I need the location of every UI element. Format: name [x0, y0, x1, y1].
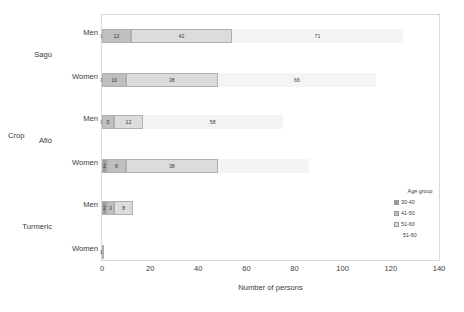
legend-item-label: 30-40: [401, 199, 415, 205]
bar-segment: [126, 73, 217, 87]
bar-track: 2838: [102, 159, 439, 173]
legend-item[interactable]: 30-40: [385, 199, 455, 205]
bar-segment: [114, 115, 143, 129]
legend-item[interactable]: 41-50: [385, 210, 455, 216]
category-label-afio-women: Women: [72, 158, 98, 167]
category-label-sagu-men: Men: [83, 28, 98, 37]
bar-segment: [107, 201, 114, 215]
stacked-bar-chart: Crop Men Sagú Women Men Afió Women Men T…: [0, 0, 464, 312]
bar-segment: [102, 73, 126, 87]
category-label-afio-men: Men: [83, 114, 98, 123]
x-axis-tick: 80: [290, 264, 298, 273]
legend-swatch-icon: [394, 200, 399, 205]
bar-segment: [107, 159, 126, 173]
bar-segment: [114, 201, 133, 215]
bar-segment: [143, 115, 283, 129]
bar-segment: [126, 159, 217, 173]
category-label-sagu-women: Women: [72, 72, 98, 81]
bar-track: 0103866: [102, 73, 439, 87]
x-axis-tick: 40: [194, 264, 202, 273]
legend-item-label: 51-60: [403, 232, 417, 238]
bar-segment: [131, 29, 232, 43]
bar-track: 051258: [102, 115, 439, 129]
bar-row: 2838: [102, 159, 439, 173]
category-label-turmeric-women: Women: [72, 244, 98, 253]
group-label-sagu: Sagú: [34, 50, 52, 59]
legend: Age group 30-4041-5051-6051-60: [385, 188, 455, 243]
legend-item[interactable]: 51-60: [385, 221, 455, 227]
bar-track: 0124271: [102, 29, 439, 43]
legend-title: Age group: [385, 188, 455, 194]
bar-segment: [218, 159, 309, 173]
legend-item-label: 51-60: [401, 221, 415, 227]
legend-swatch-icon: [394, 222, 399, 227]
group-label-afio: Afió: [39, 136, 52, 145]
bar-track: 01: [102, 245, 439, 259]
bar-segment: [232, 29, 403, 43]
group-label-turmeric: Turmeric: [22, 222, 52, 231]
legend-item-label: 41-50: [401, 210, 415, 216]
bar-segment: [218, 73, 377, 87]
bar-row: 01: [102, 245, 439, 259]
category-axis: Men Sagú Women Men Afió Women Men Turmer…: [0, 14, 98, 261]
x-axis-tick: 100: [336, 264, 349, 273]
bar-segment: [102, 29, 131, 43]
x-axis-tick: 140: [433, 264, 446, 273]
bar-row: 051258: [102, 115, 439, 129]
legend-item[interactable]: 51-60: [385, 232, 455, 238]
bar-row: 0103866: [102, 73, 439, 87]
x-axis-tick: 60: [242, 264, 250, 273]
x-axis: 020406080100120140: [101, 262, 440, 278]
legend-items: 30-4041-5051-6051-60: [385, 199, 455, 238]
x-axis-tick: 120: [385, 264, 398, 273]
category-label-turmeric-men: Men: [83, 200, 98, 209]
bar-segment: [102, 245, 104, 259]
legend-swatch-icon: [394, 211, 399, 216]
x-axis-tick: 20: [146, 264, 154, 273]
x-axis-title: Number of persons: [101, 283, 440, 292]
bar-segment: [102, 115, 114, 129]
bar-row: 0124271: [102, 29, 439, 43]
x-axis-tick: 0: [100, 264, 104, 273]
